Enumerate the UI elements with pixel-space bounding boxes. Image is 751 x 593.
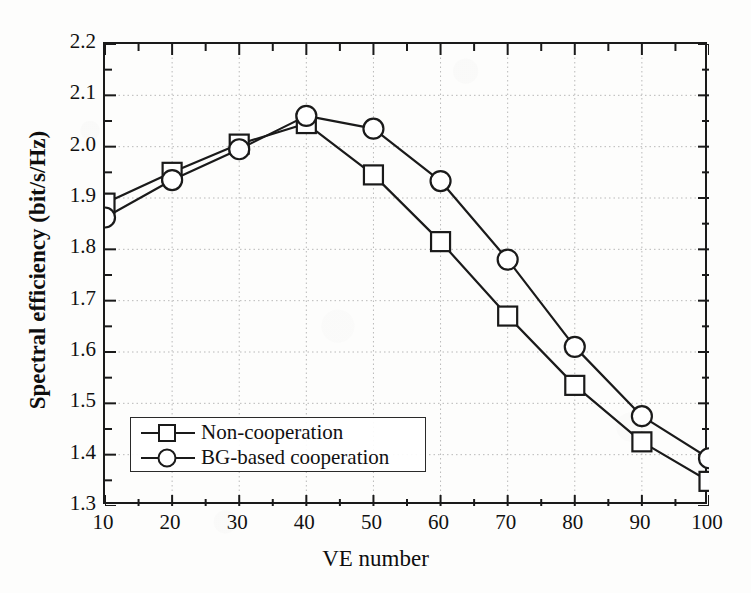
- y-axis-tick-label: 1.4: [50, 442, 96, 463]
- marker-circle: [431, 171, 451, 191]
- legend-item[interactable]: Non-cooperation: [131, 420, 425, 445]
- marker-square: [498, 307, 517, 326]
- series-line: [105, 116, 709, 458]
- marker-circle: [229, 139, 249, 159]
- y-axis-tick-label: 2.0: [50, 134, 96, 155]
- y-axis-tick-label: 2.1: [50, 82, 96, 103]
- marker-square: [632, 432, 651, 451]
- x-axis-tick-label: 90: [610, 512, 670, 533]
- marker-circle: [105, 208, 115, 228]
- x-axis-tick-label: 30: [207, 512, 267, 533]
- y-axis-tick-label: 1.3: [50, 493, 96, 514]
- marker-circle: [699, 448, 709, 468]
- marker-square: [431, 232, 450, 251]
- legend-square-marker-icon: [139, 422, 197, 444]
- chart-legend: Non-cooperationBG-based cooperation: [130, 417, 426, 472]
- x-axis-title: VE number: [0, 546, 751, 572]
- x-axis-tick-label: 40: [274, 512, 334, 533]
- marker-circle: [632, 406, 652, 426]
- x-axis-tick-labels: 102030405060708090100: [0, 512, 751, 542]
- marker-circle: [162, 170, 182, 190]
- x-axis-tick-label: 70: [476, 512, 536, 533]
- marker-circle: [296, 106, 316, 126]
- legend-item-label: Non-cooperation: [197, 422, 343, 443]
- marker-circle: [565, 337, 585, 357]
- figure-canvas: 1.31.41.51.61.71.81.92.02.12.2 Spectral …: [0, 0, 751, 593]
- series-2: [105, 106, 709, 468]
- y-axis-tick-label: 1.6: [50, 339, 96, 360]
- y-axis-tick-label: 1.9: [50, 185, 96, 206]
- y-axis-tick-label: 1.8: [50, 236, 96, 257]
- y-axis-tick-label: 2.2: [50, 31, 96, 52]
- legend-item[interactable]: BG-based cooperation: [131, 445, 425, 470]
- x-axis-tick-label: 60: [409, 512, 469, 533]
- y-axis-tick-label: 1.7: [50, 288, 96, 309]
- marker-circle: [363, 119, 383, 139]
- x-axis-tick-label: 20: [140, 512, 200, 533]
- y-axis-title: Spectral efficiency (bit/s/Hz): [25, 60, 51, 480]
- x-axis-tick-label: 10: [73, 512, 133, 533]
- marker-circle: [498, 250, 518, 270]
- legend-circle-marker-icon: [139, 447, 197, 469]
- legend-sample-svg: [139, 447, 197, 469]
- x-axis-tick-label: 100: [677, 512, 737, 533]
- legend-square-glyph: [159, 425, 175, 441]
- y-axis-tick-label: 1.5: [50, 390, 96, 411]
- marker-square: [364, 165, 383, 184]
- x-axis-tick-label: 50: [341, 512, 401, 533]
- legend-item-label: BG-based cooperation: [197, 447, 389, 468]
- marker-square: [565, 376, 584, 395]
- marker-square: [700, 472, 710, 491]
- legend-sample-svg: [139, 422, 197, 444]
- x-axis-tick-label: 80: [543, 512, 603, 533]
- legend-circle-glyph: [159, 449, 176, 466]
